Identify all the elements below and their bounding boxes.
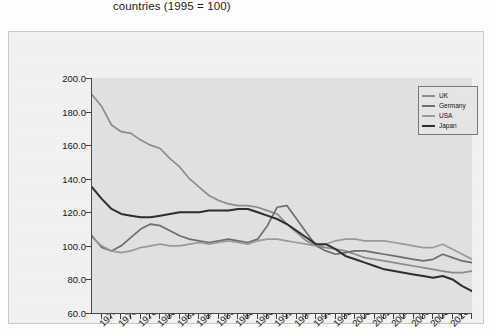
y-tick-label: 200.0 [62,73,86,84]
chart-legend: UKGermanyUSAJapan [418,86,478,135]
legend-swatch-icon [422,125,435,127]
legend-swatch-icon [422,115,435,117]
legend-swatch-icon [422,95,435,97]
legend-label: Japan [439,122,457,130]
legend-swatch-icon [422,105,435,107]
y-tick-label: 180.0 [62,106,86,117]
y-tick-label: 100.0 [62,240,86,251]
legend-label: Germany [439,102,466,110]
chart-frame: 200.0180.0160.0140.0120.0100.080.060.0 1… [8,31,484,324]
y-axis-labels: 200.0180.0160.0140.0120.0100.080.060.0 [23,78,86,313]
legend-label: USA [439,112,452,120]
page-title: countries (1995 = 100) [113,0,231,12]
plot-area [91,78,472,314]
line-series-svg [92,78,472,313]
series-container [92,78,472,313]
y-tick-label: 80.0 [68,274,87,285]
legend-item-usa[interactable]: USA [422,111,474,120]
legend-item-uk[interactable]: UK [422,91,474,100]
legend-item-japan[interactable]: Japan [422,121,474,130]
line-series-usa [92,237,472,259]
y-tick-label: 60.0 [68,308,87,319]
y-tick-label: 140.0 [62,173,86,184]
y-tick-label: 120.0 [62,207,86,218]
legend-label: UK [439,92,448,100]
chart-page: countries (1995 = 100) 200.0180.0160.014… [0,0,492,332]
line-series-germany [92,206,472,263]
x-tick-mark [471,314,472,319]
y-tick-label: 160.0 [62,140,86,151]
legend-item-germany[interactable]: Germany [422,101,474,110]
